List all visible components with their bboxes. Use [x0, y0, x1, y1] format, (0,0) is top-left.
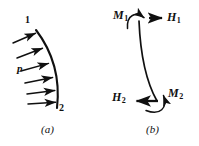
moment-label-m2: M2 — [168, 87, 183, 99]
force-label-h1: H1 — [167, 11, 180, 23]
moment-label-m2-text: M — [168, 86, 179, 100]
deformed-member-curve — [139, 21, 157, 101]
pressure-arrow-2 — [17, 48, 43, 58]
panel-b-graphics — [127, 15, 164, 113]
moment-label-m1-subscript: 1 — [124, 14, 128, 23]
pressure-arrow-5 — [27, 90, 55, 94]
moment-label-m1-text: M — [113, 8, 124, 22]
force-label-h1-subscript: 1 — [177, 16, 181, 25]
pressure-label-p: p — [17, 63, 23, 74]
panel-a-caption: (a) — [41, 124, 54, 135]
pressure-arrow-6 — [28, 102, 56, 104]
force-label-h2: H2 — [112, 91, 125, 103]
moment-arrow-m1 — [127, 15, 144, 29]
moment-label-m2-subscript: 2 — [179, 92, 183, 101]
pressure-arrow-4 — [25, 77, 53, 83]
figure-container: 1 p 2 (a) M1 H1 H2 M2 (b) — [0, 0, 199, 146]
node-label-1: 1 — [25, 15, 30, 25]
moment-label-m1: M1 — [113, 9, 128, 21]
pressure-arrow-1 — [13, 33, 36, 43]
panel-b-caption: (b) — [146, 124, 159, 135]
pressure-arrow-3 — [21, 63, 49, 71]
force-label-h1-text: H — [167, 10, 176, 24]
node-label-2: 2 — [59, 103, 64, 113]
force-label-h2-text: H — [112, 90, 121, 104]
curved-member-arc — [36, 30, 58, 108]
force-label-h2-subscript: 2 — [122, 96, 126, 105]
